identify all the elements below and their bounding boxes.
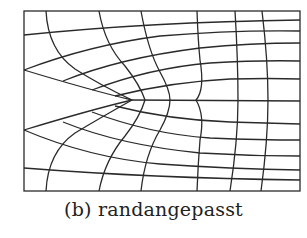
mesh-line-notch-lower [24, 100, 132, 130]
mesh-line-center [132, 100, 300, 101]
mesh-line-h [92, 61, 300, 90]
mesh-line-h [24, 168, 300, 180]
mesh-line-h [24, 20, 300, 35]
mesh-line-h [63, 43, 300, 81]
figure-caption: (b) randangepasst [0, 198, 307, 220]
mesh-line-h [92, 112, 300, 140]
mesh-line-h [24, 130, 300, 170]
mesh-figure: (b) randangepasst [0, 0, 307, 238]
mesh-line-v [46, 11, 132, 191]
mesh-line-h [115, 106, 300, 124]
mesh-line-h [24, 31, 300, 70]
mesh-line-v [99, 11, 145, 191]
